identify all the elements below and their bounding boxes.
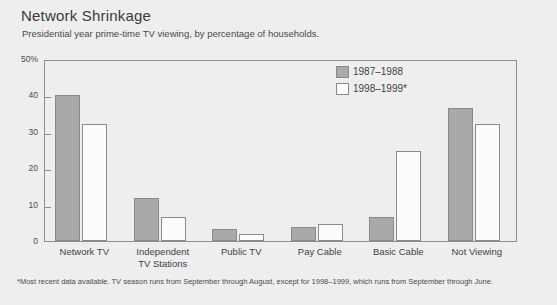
x-axis-label-0: Network TV [45, 246, 124, 258]
x-axis-tick-labels: Network TVIndependent TV StationsPublic … [45, 246, 516, 278]
bar-0-3 [291, 227, 316, 241]
y-axis-label-20: 20 [8, 163, 38, 173]
y-axis-label-30: 30 [8, 127, 38, 137]
x-axis-label-5: Not Viewing [438, 246, 517, 258]
chart-subtitle: Presidential year prime-time TV viewing,… [22, 28, 319, 39]
legend-label-series-1: 1998–1999* [353, 83, 407, 94]
y-axis-label-0: 0 [8, 236, 38, 246]
bar-1-5 [475, 124, 500, 241]
y-axis-label-10: 10 [8, 200, 38, 210]
chart-figure: Network Shrinkage Presidential year prim… [0, 0, 557, 305]
chart-title: Network Shrinkage [21, 7, 151, 24]
bar-1-3 [318, 224, 343, 241]
y-axis-label-50: 50% [8, 54, 38, 64]
bar-0-2 [212, 229, 237, 241]
bar-0-5 [448, 108, 473, 241]
y-axis-tick-labels: 01020304050% [8, 60, 38, 242]
bar-0-4 [369, 217, 394, 241]
bar-1-0 [82, 124, 107, 241]
bar-1-4 [396, 151, 421, 241]
legend-item-series-0: 1987–1988 [336, 63, 446, 80]
x-axis-label-2: Public TV [202, 246, 281, 258]
x-axis-label-4: Basic Cable [359, 246, 438, 258]
y-axis-label-40: 40 [8, 90, 38, 100]
chart-footnote: *Most recent data available. TV season r… [17, 277, 493, 286]
bar-1-1 [161, 217, 186, 241]
bar-1-2 [239, 234, 264, 241]
x-axis-label-1: Independent TV Stations [124, 246, 203, 270]
legend-item-series-1: 1998–1999* [336, 80, 446, 97]
legend-swatch-icon-series-1 [336, 83, 349, 95]
chart-legend: 1987–1988 1998–1999* [336, 63, 446, 97]
legend-label-series-0: 1987–1988 [353, 66, 403, 77]
bar-0-0 [55, 95, 80, 241]
x-axis-label-3: Pay Cable [281, 246, 360, 258]
legend-swatch-icon-series-0 [336, 66, 349, 78]
bar-0-1 [134, 198, 159, 241]
